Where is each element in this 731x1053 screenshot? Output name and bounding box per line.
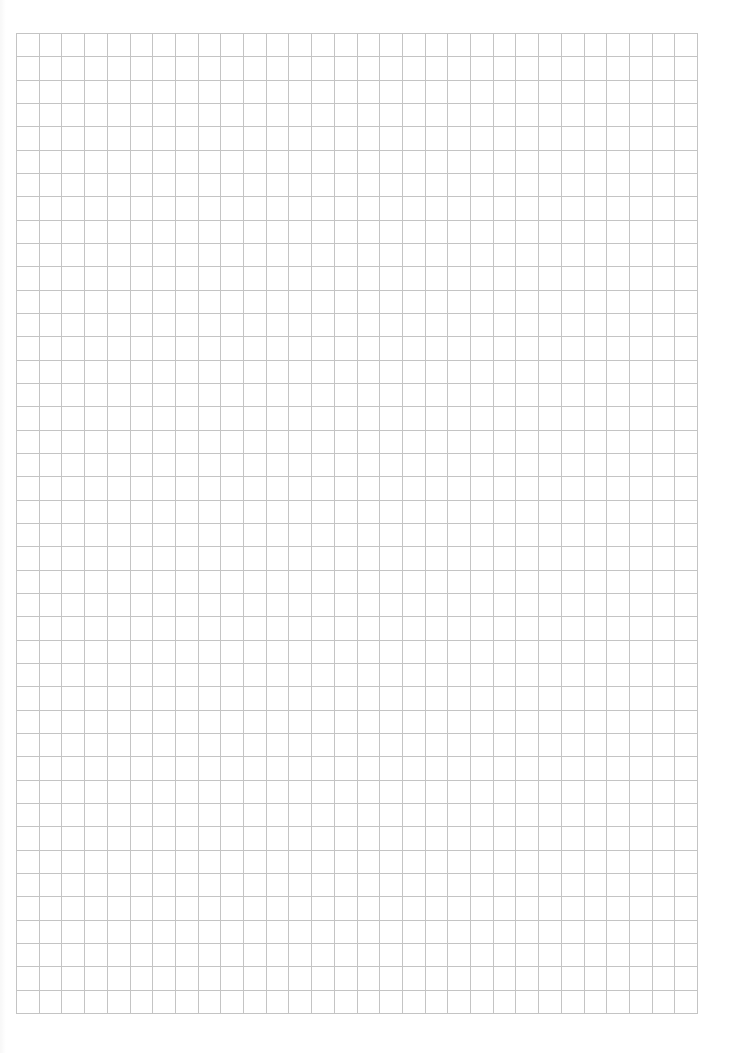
square-grid <box>16 33 698 1014</box>
grid-lines <box>16 33 698 1014</box>
grid-paper-page <box>0 0 731 1053</box>
